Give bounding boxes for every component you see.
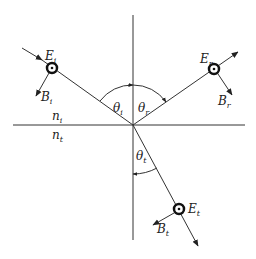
label-e-incident: Ei xyxy=(44,49,57,65)
angle-arc-transmitted xyxy=(133,168,157,174)
angle-arc-incident xyxy=(100,85,133,101)
label-n-lower: nt xyxy=(52,128,64,144)
label-b-transmitted: Bt xyxy=(156,222,170,238)
label-theta-incident: θi xyxy=(113,101,123,117)
b-field-arrow-reflected xyxy=(218,74,232,95)
reflection-refraction-diagram: Ei Bi θi Er Br θr Et Bt θt ni nt xyxy=(0,0,256,259)
label-e-transmitted: Et xyxy=(187,202,201,218)
label-e-reflected: Er xyxy=(199,52,214,68)
label-b-incident: Bi xyxy=(40,90,53,106)
label-b-reflected: Br xyxy=(217,94,232,110)
label-n-upper: ni xyxy=(52,109,63,125)
label-theta-reflected: θr xyxy=(138,101,150,117)
label-theta-transmitted: θt xyxy=(136,149,147,165)
angle-arc-reflected xyxy=(133,85,166,102)
